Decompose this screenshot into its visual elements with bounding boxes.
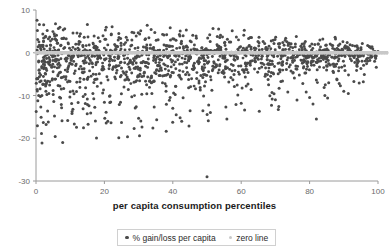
svg-text:-30: -30 [18, 177, 30, 186]
chart-legend: % gain/loss per capita zero line [117, 229, 276, 246]
axis-lines [36, 10, 378, 181]
svg-text:20: 20 [100, 187, 109, 196]
svg-text:-20: -20 [18, 134, 30, 143]
svg-text:60: 60 [237, 187, 246, 196]
zero-line-series [34, 51, 388, 54]
legend-item-zero-line: zero line [229, 233, 269, 243]
svg-text:0: 0 [34, 187, 39, 196]
legend-marker-icon [229, 236, 233, 240]
scatter-plot-canvas: 100-10-20-30 020406080100 [0, 0, 389, 251]
svg-text:80: 80 [305, 187, 314, 196]
y-axis-tick-labels: 100-10-20-30 [18, 6, 30, 186]
x-axis-title: per capita consumption percentiles [0, 200, 389, 211]
x-axis-tick-labels: 020406080100 [34, 187, 385, 196]
legend-item-gain-loss: % gain/loss per capita [125, 233, 216, 243]
svg-text:0: 0 [26, 49, 31, 58]
legend-marker-icon [125, 236, 129, 240]
svg-text:100: 100 [371, 187, 385, 196]
legend-label: zero line [236, 233, 268, 243]
chart-figure: 100-10-20-30 020406080100 per capita con… [0, 0, 389, 251]
svg-text:10: 10 [21, 6, 30, 15]
svg-text:40: 40 [168, 187, 177, 196]
svg-text:-10: -10 [18, 92, 30, 101]
legend-label: % gain/loss per capita [133, 233, 216, 243]
data-point-cloud [35, 19, 380, 178]
